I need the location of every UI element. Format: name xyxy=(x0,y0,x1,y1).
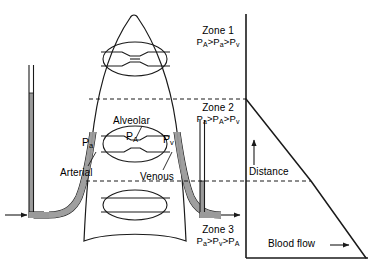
graph-axes xyxy=(246,14,368,258)
zone-1-title: Zone 1 xyxy=(190,26,246,37)
arterial-label: Arterial xyxy=(60,168,92,179)
zone-1-relation-text: PA>Pa>Pv xyxy=(196,36,239,47)
blood-flow-curve xyxy=(246,99,366,258)
lung-outline xyxy=(84,15,186,241)
arterial-manometer xyxy=(5,65,49,218)
zone-2-label-group: Zone 2 Pa>PA>Pv xyxy=(188,103,248,123)
west-zones-figure: Zone 1 PA>Pa>Pv Zone 2 Pa>PA>Pv Zone 3 P… xyxy=(0,0,372,271)
zone-3-relation-text: Pa>Pv>PA xyxy=(196,235,239,246)
zone-1-relation: PA>Pa>Pv xyxy=(190,37,246,47)
venous-pressure-symbol: Pv xyxy=(163,134,174,145)
distance-axis-label: Distance xyxy=(249,167,289,178)
zone-2-title: Zone 2 xyxy=(188,103,248,114)
zone-3-relation: Pa>Pv>PA xyxy=(188,236,248,246)
alveolar-label: Alveolar xyxy=(113,116,150,127)
zone-3-title: Zone 3 xyxy=(188,225,248,236)
zone-2-relation-text: Pa>PA>Pv xyxy=(196,113,239,124)
diagram-canvas xyxy=(0,0,372,271)
alveolar-pressure-symbol: PA xyxy=(126,131,138,142)
venous-label: Venous xyxy=(140,172,174,183)
zone-3-label-group: Zone 3 Pa>Pv>PA xyxy=(188,225,248,245)
zone-1-label-group: Zone 1 PA>Pa>Pv xyxy=(190,26,246,46)
venous-manometer xyxy=(200,120,240,218)
arterial-pressure-symbol: Pa xyxy=(82,137,93,148)
blood-flow-axis-label: Blood flow xyxy=(268,239,315,250)
zone-2-relation: Pa>PA>Pv xyxy=(188,114,248,124)
